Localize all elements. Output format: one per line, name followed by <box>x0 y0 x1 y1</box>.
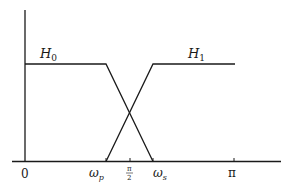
h0-curve <box>25 64 153 162</box>
h0-label: H0 <box>39 46 57 63</box>
filter-response-diagram: H0 H1 0 ωp π 2 ωs π <box>0 0 293 188</box>
svg-text:2: 2 <box>127 174 131 182</box>
tick-label-omega-s: ωs <box>153 166 167 182</box>
tick-label-zero: 0 <box>21 167 29 181</box>
tick-label-pi: π <box>228 166 236 180</box>
tick-label-omega-p: ωp <box>89 166 104 182</box>
svg-text:π: π <box>127 165 132 173</box>
h1-curve <box>106 64 235 162</box>
tick-label-half-pi: π 2 <box>126 165 133 182</box>
h1-label: H1 <box>187 46 205 63</box>
